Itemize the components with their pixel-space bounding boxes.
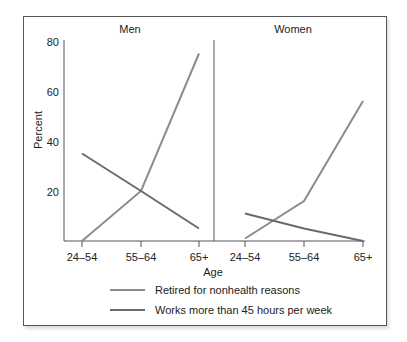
- men-xtick-2: 55–64: [126, 251, 157, 263]
- legend-works: Works more than 45 hours per week: [110, 304, 332, 316]
- men-xtick-3: 65+: [190, 251, 209, 263]
- men-xtick-1: 24–54: [67, 251, 98, 263]
- legend-retired: Retired for nonhealth reasons: [110, 284, 300, 296]
- women-xtick-3: 65+: [354, 251, 373, 263]
- legend-label-works: Works more than 45 hours per week: [155, 304, 332, 316]
- women-xtick-2: 55–64: [289, 251, 320, 263]
- women-xtick-1: 24–54: [230, 251, 261, 263]
- men-retired-line: [82, 54, 199, 242]
- legend-label-retired: Retired for nonhealth reasons: [155, 284, 300, 296]
- ytick-40: 40: [47, 136, 59, 148]
- legend-swatch-retired: [110, 289, 145, 291]
- men-title: Men: [119, 23, 140, 35]
- women-title: Women: [274, 23, 312, 35]
- men-works-line: [82, 154, 199, 229]
- ytick-60: 60: [47, 86, 59, 98]
- ytick-80: 80: [47, 36, 59, 48]
- y-axis-label: Percent: [32, 111, 44, 149]
- x-axis-label: Age: [203, 266, 223, 278]
- ytick-20: 20: [47, 186, 59, 198]
- legend-swatch-works: [110, 309, 145, 311]
